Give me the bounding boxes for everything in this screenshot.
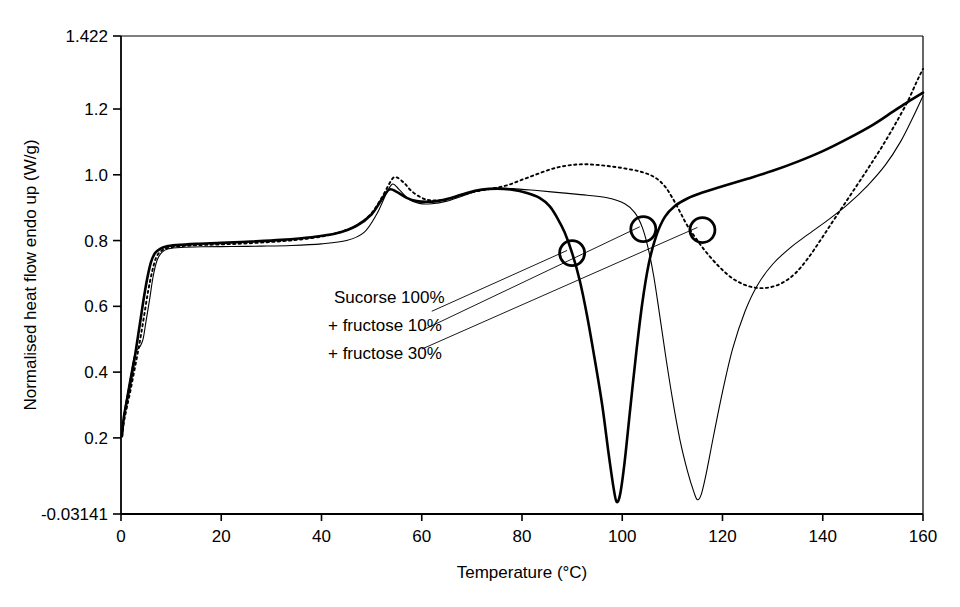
y-tick-label: 0.6 xyxy=(84,297,108,316)
series-line-1 xyxy=(122,93,923,503)
plot-frame xyxy=(121,36,923,514)
y-axis-ticks: -0.031410.20.40.60.81.01.21.422 xyxy=(41,27,121,524)
x-tick-label: 100 xyxy=(608,527,636,546)
y-tick-label: 0.4 xyxy=(84,363,108,382)
x-tick-label: 160 xyxy=(909,527,937,546)
x-axis-title: Temperature (°C) xyxy=(457,563,588,582)
leader-line-2 xyxy=(424,227,640,330)
onset-markers-group xyxy=(560,217,715,266)
series-line-3 xyxy=(122,69,923,436)
leader-line-1 xyxy=(432,250,567,311)
onset-circle-icon xyxy=(690,218,715,243)
x-axis-ticks: 020406080100120140160 xyxy=(116,514,937,546)
x-tick-label: 20 xyxy=(212,527,231,546)
data-series-group xyxy=(122,69,923,502)
y-tick-label: -0.03141 xyxy=(41,505,108,524)
dsc-thermogram-figure: 020406080100120140160 -0.031410.20.40.60… xyxy=(0,0,960,607)
y-tick-label: 1.2 xyxy=(84,100,108,119)
x-tick-label: 120 xyxy=(708,527,736,546)
x-tick-label: 40 xyxy=(312,527,331,546)
y-tick-label: 1.0 xyxy=(84,166,108,185)
x-tick-label: 80 xyxy=(513,527,532,546)
y-axis-title: Normalised heat flow endo up (W/g) xyxy=(21,139,40,410)
y-tick-label: 0.2 xyxy=(84,429,108,448)
legend-line-1: Sucorse 100% xyxy=(334,288,445,307)
series-line-2 xyxy=(122,96,923,500)
legend-line-3: + fructose 30% xyxy=(328,344,442,363)
x-tick-label: 140 xyxy=(809,527,837,546)
chart-canvas: 020406080100120140160 -0.031410.20.40.60… xyxy=(0,0,960,607)
y-tick-label: 1.422 xyxy=(65,27,108,46)
x-tick-label: 0 xyxy=(116,527,125,546)
x-tick-label: 60 xyxy=(412,527,431,546)
y-tick-label: 0.8 xyxy=(84,232,108,251)
legend-line-2: + fructose 10% xyxy=(328,316,442,335)
